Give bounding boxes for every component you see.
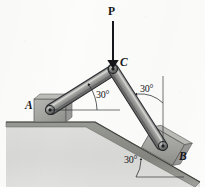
mechanics-figure: P C A B 30° 30° 30°	[0, 0, 205, 187]
joint-label-a: A	[25, 100, 33, 112]
angle-label-cb: 30°	[140, 84, 153, 94]
joint-label-c: C	[120, 57, 128, 69]
angle-arc-cb	[137, 94, 163, 103]
angle-label-ac: 30°	[96, 90, 109, 100]
angle-label-incline: 30°	[124, 155, 137, 165]
bar-cb-highlight	[116, 69, 164, 144]
pin-c-inner	[111, 67, 114, 70]
joint-label-b: B	[179, 151, 187, 163]
force-label-p: P	[108, 6, 115, 18]
